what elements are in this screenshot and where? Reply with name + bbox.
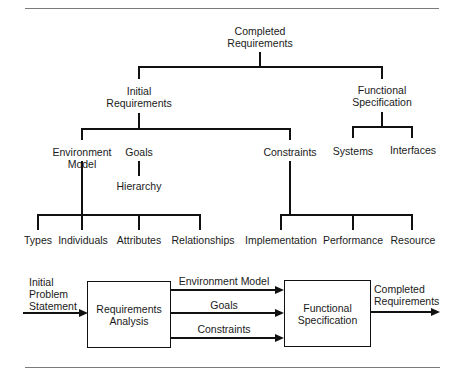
- connector: [199, 214, 201, 230]
- connector: [138, 66, 383, 68]
- connector: [280, 214, 282, 230]
- connector: [81, 214, 83, 230]
- tree-functional-specification: Functional Specification: [352, 84, 412, 108]
- bottom-rule: [25, 367, 440, 368]
- tree-performance: Performance: [323, 234, 383, 246]
- connector-arrow-line: [171, 337, 276, 339]
- functional-specification-box: Functional Specification: [284, 280, 371, 347]
- connector-arrow-line: [171, 289, 276, 291]
- connector: [411, 214, 413, 230]
- arrowhead-icon: [431, 308, 440, 316]
- flow-connector-label-constraints: Constraints: [197, 323, 250, 335]
- tree-attributes: Attributes: [117, 234, 161, 246]
- top-rule: [25, 8, 439, 9]
- tree-goals: Goals: [125, 146, 152, 158]
- flow-output-label: Completed Requirements: [374, 283, 439, 307]
- tree-constraints: Constraints: [263, 146, 316, 158]
- input-arrow-line: [23, 312, 80, 314]
- connector: [259, 52, 261, 67]
- tree-initial-requirements: Initial Requirements: [106, 85, 171, 109]
- connector: [352, 214, 354, 230]
- flow-connector-label-environment: Environment Model: [179, 275, 269, 287]
- arrowhead-icon: [275, 309, 284, 317]
- connector: [37, 214, 39, 230]
- connector: [138, 161, 140, 176]
- tree-types: Types: [24, 234, 52, 246]
- arrowhead-icon: [275, 334, 284, 342]
- connector: [289, 128, 291, 140]
- connector: [81, 128, 83, 140]
- tree-interfaces: Interfaces: [390, 144, 436, 156]
- connector: [280, 214, 413, 216]
- tree-individuals: Individuals: [58, 234, 108, 246]
- connector: [352, 126, 354, 138]
- connector: [81, 161, 83, 216]
- flow-connector-label-goals: Goals: [210, 299, 237, 311]
- output-arrow-line: [371, 311, 432, 313]
- tree-hierarchy: Hierarchy: [117, 180, 162, 192]
- connector: [381, 66, 383, 79]
- connector: [138, 214, 140, 230]
- tree-resource: Resource: [391, 234, 436, 246]
- arrowhead-icon: [275, 286, 284, 294]
- connector: [289, 161, 291, 216]
- connector-arrow-line: [171, 312, 276, 314]
- requirements-analysis-box: Requirements Analysis: [87, 281, 171, 348]
- connector: [138, 66, 140, 79]
- connector: [81, 128, 291, 130]
- tree-root-label: Completed Requirements: [227, 25, 292, 49]
- tree-relationships: Relationships: [171, 234, 234, 246]
- connector: [411, 126, 413, 138]
- tree-implementation: Implementation: [245, 234, 317, 246]
- connector: [352, 126, 413, 128]
- flow-input-label: Initial Problem Statement: [29, 276, 77, 312]
- tree-systems: Systems: [333, 145, 373, 157]
- connector: [37, 214, 201, 216]
